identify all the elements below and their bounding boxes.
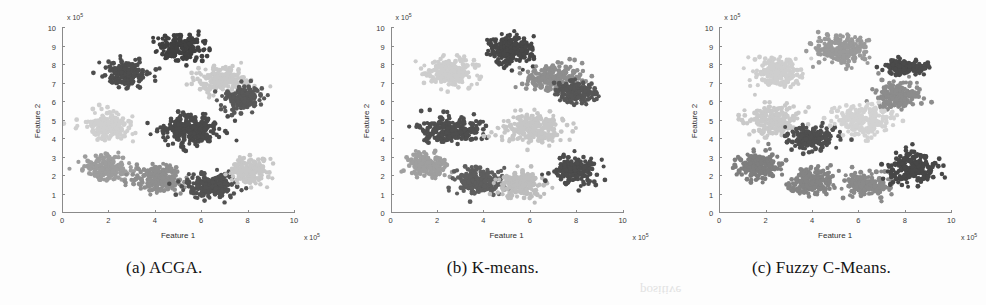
y-tick-label: 3 bbox=[52, 153, 56, 162]
cluster-7 bbox=[399, 149, 454, 181]
y-axis-title-a: Feature 2 bbox=[33, 103, 42, 137]
y-tick-label: 10 bbox=[376, 24, 384, 33]
x-axis-multiplier-c: x 105 bbox=[961, 232, 977, 241]
cluster-11 bbox=[879, 142, 947, 189]
x-tick-label: 2 bbox=[763, 216, 767, 225]
x-tick bbox=[294, 210, 295, 213]
x-tick-label: 4 bbox=[481, 216, 485, 225]
x-tick-label: 2 bbox=[106, 216, 110, 225]
cluster-1 bbox=[151, 29, 212, 68]
y-axis-line-a bbox=[62, 28, 63, 213]
y-tick-label: 3 bbox=[709, 153, 713, 162]
cluster-5 bbox=[62, 102, 138, 143]
x-axis-line-a bbox=[62, 212, 294, 213]
x-tick-label: 4 bbox=[810, 216, 814, 225]
x-tick bbox=[248, 210, 249, 213]
y-tick bbox=[719, 175, 722, 176]
y-tick bbox=[62, 194, 65, 195]
y-tick bbox=[62, 138, 65, 139]
y-tick bbox=[391, 64, 394, 65]
x-axis-line-b bbox=[391, 212, 623, 213]
y-tick-label: 1 bbox=[380, 190, 384, 199]
y-tick-label: 0 bbox=[709, 209, 713, 218]
x-tick-label: 4 bbox=[153, 216, 157, 225]
x-tick-label: 8 bbox=[246, 216, 250, 225]
y-tick bbox=[719, 194, 722, 195]
y-tick-label: 6 bbox=[709, 98, 713, 107]
cluster-1 bbox=[804, 30, 872, 71]
y-tick-label: 8 bbox=[52, 61, 56, 70]
y-tick bbox=[391, 83, 394, 84]
y-tick-label: 2 bbox=[709, 172, 713, 181]
x-tick-label: 2 bbox=[435, 216, 439, 225]
y-axis-line-b bbox=[391, 28, 392, 213]
y-tick-label: 0 bbox=[380, 209, 384, 218]
x-tick-label: 0 bbox=[60, 216, 64, 225]
y-axis-multiplier-c: x 105 bbox=[724, 12, 740, 21]
x-axis-multiplier-b: x 105 bbox=[632, 232, 648, 241]
cluster-2 bbox=[91, 54, 162, 91]
scan-bleed-artifact: positive bbox=[640, 282, 681, 298]
x-tick bbox=[437, 210, 438, 213]
y-tick bbox=[391, 138, 394, 139]
y-tick-label: 3 bbox=[380, 153, 384, 162]
x-axis-title-c: Feature 1 bbox=[818, 231, 852, 240]
y-axis-title-c: Feature 2 bbox=[690, 103, 699, 137]
cluster-1 bbox=[484, 29, 536, 73]
y-tick bbox=[391, 194, 394, 195]
y-axis-multiplier-b: x 105 bbox=[396, 12, 412, 21]
y-tick-label: 4 bbox=[709, 135, 713, 144]
y-tick-label: 7 bbox=[52, 79, 56, 88]
x-axis-title-a: Feature 1 bbox=[161, 231, 195, 240]
x-tick-label: 8 bbox=[574, 216, 578, 225]
y-tick bbox=[62, 157, 65, 158]
x-tick-label: 6 bbox=[856, 216, 860, 225]
x-tick bbox=[576, 210, 577, 213]
y-tick bbox=[719, 138, 722, 139]
y-tick bbox=[719, 157, 722, 158]
y-tick bbox=[62, 27, 65, 28]
x-tick bbox=[201, 210, 202, 213]
cluster-10 bbox=[540, 149, 607, 193]
plot-area-c: x 105 x 105 Feature 1 Feature 2 02468100… bbox=[719, 28, 951, 213]
y-tick bbox=[719, 212, 722, 213]
y-tick bbox=[62, 175, 65, 176]
x-tick-label: 10 bbox=[947, 216, 955, 225]
y-tick-label: 2 bbox=[52, 172, 56, 181]
caption-b: (b) K-means. bbox=[329, 258, 658, 278]
y-tick bbox=[391, 175, 394, 176]
y-tick-label: 5 bbox=[52, 116, 56, 125]
cluster-5 bbox=[407, 108, 489, 147]
y-axis-title-b: Feature 2 bbox=[361, 103, 370, 137]
cluster-3 bbox=[875, 55, 932, 78]
y-tick-label: 10 bbox=[705, 24, 713, 33]
y-tick bbox=[391, 101, 394, 102]
y-tick bbox=[719, 64, 722, 65]
y-axis-line-c bbox=[719, 28, 720, 213]
y-tick bbox=[391, 46, 394, 47]
x-tick-label: 6 bbox=[199, 216, 203, 225]
x-axis-multiplier-a: x 105 bbox=[304, 232, 320, 241]
y-tick-label: 9 bbox=[380, 42, 384, 51]
x-tick-label: 6 bbox=[528, 216, 532, 225]
cluster-7 bbox=[67, 151, 138, 183]
x-tick-label: 0 bbox=[717, 216, 721, 225]
y-tick-label: 2 bbox=[380, 172, 384, 181]
y-tick-label: 0 bbox=[52, 209, 56, 218]
x-tick-label: 0 bbox=[389, 216, 393, 225]
cluster-9 bbox=[786, 163, 851, 201]
scatter-plot-a bbox=[62, 28, 294, 213]
x-tick bbox=[905, 210, 906, 213]
x-tick bbox=[530, 210, 531, 213]
scatter-plot-b bbox=[391, 28, 623, 213]
y-tick-label: 5 bbox=[380, 116, 384, 125]
caption-a: (a) ACGA. bbox=[0, 258, 329, 278]
y-tick-label: 5 bbox=[709, 116, 713, 125]
x-tick bbox=[951, 210, 952, 213]
y-tick-label: 8 bbox=[709, 61, 713, 70]
y-tick bbox=[62, 83, 65, 84]
panel-a: x 105 x 105 Feature 1 Feature 2 02468100… bbox=[0, 0, 329, 305]
y-tick bbox=[719, 27, 722, 28]
y-tick-label: 6 bbox=[380, 98, 384, 107]
y-tick-label: 1 bbox=[709, 190, 713, 199]
